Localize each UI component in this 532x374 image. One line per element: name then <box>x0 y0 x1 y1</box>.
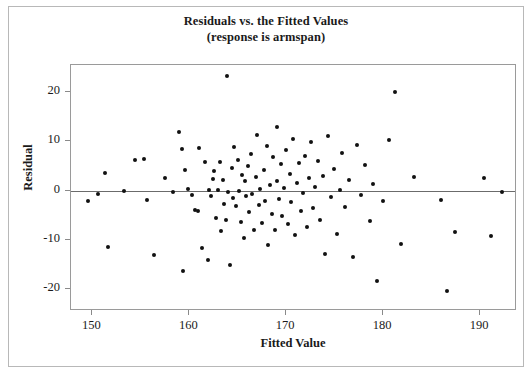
scatter-point <box>183 168 187 172</box>
scatter-point <box>237 189 241 193</box>
scatter-point <box>387 138 391 142</box>
scatter-point <box>301 191 305 195</box>
scatter-point <box>142 157 146 161</box>
plot-area <box>70 64 516 310</box>
scatter-point <box>260 221 264 225</box>
x-tick-mark <box>91 310 92 315</box>
scatter-point <box>293 233 297 237</box>
scatter-point <box>181 269 185 273</box>
scatter-point <box>209 194 213 198</box>
scatter-point <box>280 214 284 218</box>
scatter-point <box>177 130 181 134</box>
scatter-point <box>323 252 327 256</box>
scatter-point <box>224 218 228 222</box>
scatter-point <box>321 174 325 178</box>
scatter-point <box>212 169 216 173</box>
scatter-point <box>133 158 137 162</box>
scatter-point <box>275 125 279 129</box>
scatter-point <box>252 228 256 232</box>
scatter-point <box>200 246 204 250</box>
scatter-point <box>363 163 367 167</box>
scatter-point <box>207 188 211 192</box>
scatter-point <box>236 158 240 162</box>
chart-figure: Residuals vs. the Fitted Values (respons… <box>0 0 532 374</box>
scatter-point <box>332 167 336 171</box>
scatter-point <box>219 229 223 233</box>
zero-reference-line <box>71 191 515 192</box>
x-tick-label: 150 <box>71 318 111 333</box>
scatter-point <box>307 176 311 180</box>
scatter-point <box>275 179 279 183</box>
scatter-point <box>282 186 286 190</box>
x-tick-mark <box>382 310 383 315</box>
scatter-point <box>228 263 232 267</box>
scatter-point <box>318 218 322 222</box>
y-tick-label: 0 <box>22 182 60 197</box>
scatter-point <box>266 243 270 247</box>
scatter-point <box>303 154 307 158</box>
y-tick-label: -10 <box>22 231 60 246</box>
scatter-point <box>270 212 274 216</box>
scatter-point <box>277 197 281 201</box>
x-tick-mark <box>285 310 286 315</box>
scatter-point <box>262 168 266 172</box>
scatter-point <box>393 90 397 94</box>
scatter-point <box>347 178 351 182</box>
y-tick-label: -20 <box>22 280 60 295</box>
x-tick-label: 170 <box>265 318 305 333</box>
scatter-point <box>221 178 225 182</box>
x-tick-label: 190 <box>459 318 499 333</box>
scatter-point <box>106 245 110 249</box>
scatter-point <box>291 137 295 141</box>
y-axis-title: Residual <box>21 108 36 228</box>
scatter-point <box>453 230 457 234</box>
scatter-point <box>225 74 229 78</box>
scatter-point <box>399 242 403 246</box>
scatter-point <box>242 236 246 240</box>
scatter-point <box>305 225 309 229</box>
x-tick-mark <box>479 310 480 315</box>
scatter-point <box>234 204 238 208</box>
scatter-point <box>145 198 149 202</box>
scatter-point <box>254 175 258 179</box>
scatter-point <box>255 133 259 137</box>
scatter-point <box>445 289 449 293</box>
scatter-point <box>297 161 301 165</box>
scatter-point <box>268 183 272 187</box>
scatter-point <box>368 219 372 223</box>
scatter-point <box>412 175 416 179</box>
chart-title: Residuals vs. the Fitted Values <box>0 14 532 30</box>
scatter-point <box>152 253 156 257</box>
scatter-point <box>355 143 359 147</box>
scatter-point <box>371 182 375 186</box>
scatter-point <box>500 190 504 194</box>
scatter-point <box>326 134 330 138</box>
scatter-point <box>96 192 100 196</box>
scatter-point <box>482 176 486 180</box>
scatter-point <box>359 193 363 197</box>
scatter-point <box>226 190 230 194</box>
scatter-point <box>381 199 385 203</box>
scatter-point <box>180 147 184 151</box>
x-axis-title: Fitted Value <box>70 336 516 351</box>
scatter-point <box>265 144 269 148</box>
chart-title-block: Residuals vs. the Fitted Values (respons… <box>0 14 532 45</box>
scatter-point <box>163 176 167 180</box>
x-tick-mark <box>188 310 189 315</box>
scatter-point <box>375 279 379 283</box>
scatter-point <box>247 210 251 214</box>
scatter-point <box>103 171 107 175</box>
scatter-point <box>271 155 275 159</box>
scatter-point <box>214 216 218 220</box>
scatter-point <box>239 220 243 224</box>
scatter-point <box>86 199 90 203</box>
scatter-point <box>351 255 355 259</box>
scatter-point <box>263 199 267 203</box>
scatter-point <box>230 166 234 170</box>
scatter-point <box>299 209 303 213</box>
scatter-point <box>288 172 292 176</box>
scatter-point <box>211 177 215 181</box>
scatter-point <box>222 202 226 206</box>
scatter-point <box>250 192 254 196</box>
scatter-point <box>295 181 299 185</box>
